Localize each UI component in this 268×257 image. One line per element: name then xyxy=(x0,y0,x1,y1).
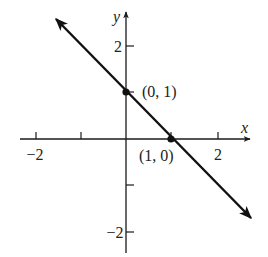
x-axis-label: x xyxy=(240,119,248,136)
line-graph: −2 2 x 2 −2 y (0, 1) (1, 0) xyxy=(0,0,268,257)
point-0-1 xyxy=(122,88,129,95)
x-tick-label-neg2: −2 xyxy=(26,146,43,163)
data-line-y-equals-1-minus-x xyxy=(56,19,251,218)
point-1-0 xyxy=(167,135,174,142)
y-axis-label: y xyxy=(111,8,121,26)
x-axis: −2 2 x xyxy=(20,119,250,163)
y-tick-label-2: 2 xyxy=(114,38,122,55)
y-tick-label-neg2: −2 xyxy=(106,224,123,241)
point-label-1-0: (1, 0) xyxy=(139,147,174,165)
x-tick-label-2: 2 xyxy=(214,146,222,163)
point-label-0-1: (0, 1) xyxy=(142,83,177,101)
y-axis: 2 −2 y xyxy=(106,8,134,253)
